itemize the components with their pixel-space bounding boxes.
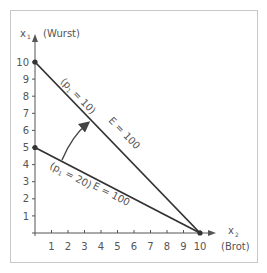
svg-text:7: 7 (147, 241, 153, 252)
svg-text:(Brot): (Brot) (221, 241, 250, 252)
intercept-point-x10 (197, 230, 202, 235)
svg-text:10: 10 (16, 57, 29, 68)
svg-text:2: 2 (65, 241, 71, 252)
svg-text:9: 9 (23, 74, 29, 85)
svg-text:5: 5 (23, 142, 29, 153)
svg-text:6: 6 (23, 125, 29, 136)
svg-text:1: 1 (27, 33, 31, 40)
budget-line-chart: 1 2 3 4 5 6 7 8 9 10 1 2 3 4 5 6 7 8 9 1… (0, 0, 267, 273)
label-e100-upper: E = 100 (107, 115, 143, 152)
svg-text:4: 4 (98, 241, 104, 252)
svg-text:2: 2 (235, 231, 239, 238)
svg-text:1: 1 (23, 211, 29, 222)
svg-text:9: 9 (180, 241, 186, 252)
svg-text:8: 8 (164, 241, 170, 252)
label-e100-lower: E = 100 (91, 180, 132, 208)
svg-text:6: 6 (131, 241, 137, 252)
x-axis-title: x 2 (Brot) (221, 225, 250, 252)
svg-text:E = 100: E = 100 (107, 115, 143, 152)
svg-text:E = 100: E = 100 (91, 180, 132, 208)
svg-text:4: 4 (23, 159, 29, 170)
svg-text:5: 5 (114, 241, 120, 252)
label-p1-10: (p1 = 10) (58, 76, 98, 117)
rotation-arrow-icon (62, 123, 88, 160)
y-axis-arrow-icon (32, 34, 38, 42)
svg-text:x: x (228, 225, 234, 236)
svg-text:8: 8 (23, 91, 29, 102)
svg-text:2: 2 (23, 193, 29, 204)
x-tick-labels: 1 2 3 4 5 6 7 8 9 10 (48, 241, 206, 252)
svg-text:x: x (20, 28, 26, 39)
label-p1-20: (p1 = 20) (48, 160, 94, 191)
svg-text:(p1 = 10): (p1 = 10) (58, 76, 98, 117)
svg-text:3: 3 (23, 176, 29, 187)
svg-text:3: 3 (81, 241, 87, 252)
svg-text:(p1 = 20): (p1 = 20) (48, 160, 94, 191)
intercept-point-10 (32, 59, 37, 64)
x-axis-arrow-icon (208, 230, 216, 236)
y-tick-labels: 1 2 3 4 5 6 7 8 9 10 (16, 57, 29, 222)
svg-text:(Wurst): (Wurst) (43, 28, 80, 39)
budget-line-p1-10 (35, 62, 200, 233)
svg-text:7: 7 (23, 108, 29, 119)
svg-text:10: 10 (194, 241, 207, 252)
y-axis-title: x 1 (Wurst) (20, 28, 80, 40)
intercept-point-5 (32, 145, 37, 150)
svg-text:1: 1 (48, 241, 54, 252)
